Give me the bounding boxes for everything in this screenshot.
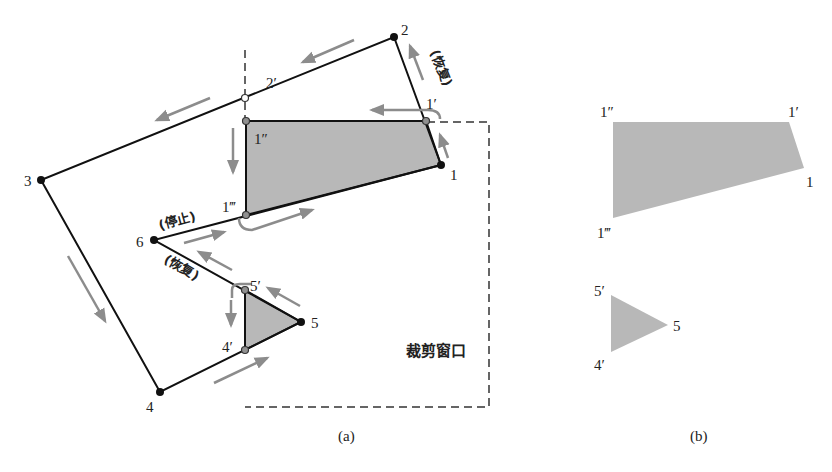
label-5-prime: 5′ [250, 278, 261, 294]
label-vertex-3: 3 [24, 173, 32, 189]
clipped-region-2 [245, 290, 301, 350]
label-vertex-4: 4 [146, 399, 154, 415]
vertices [37, 33, 445, 396]
label-1-triple-prime: 1‴ [222, 199, 237, 215]
caption-a: (a) [338, 428, 355, 445]
label-vertex-2: 2 [401, 22, 409, 38]
label-vertex-1: 1 [450, 167, 458, 183]
vertex-1 [437, 161, 445, 169]
arrow-1p-to-2 [410, 46, 423, 80]
arrow-6-to-1ppp [184, 232, 224, 243]
result-polygon-2 [611, 295, 668, 352]
point-2-prime [242, 95, 249, 102]
label-1-prime: 1′ [426, 96, 437, 112]
subject-polygon [41, 37, 441, 392]
caption-b: (b) [690, 428, 708, 445]
panel-a: 1 2 3 4 5 6 1′ 2′ 1″ 1‴ 5′ 4′ (恢复) (停止) … [24, 22, 489, 445]
label-b-5-prime: 5′ [594, 283, 605, 299]
point-1-triple-prime [243, 212, 250, 219]
label-b-1: 1 [806, 174, 814, 190]
arrow-1-to-1p [440, 135, 448, 158]
arrow-2p-to-3 [157, 98, 210, 120]
label-b-1-triple-prime: 1‴ [597, 225, 612, 241]
label-vertex-6: 6 [136, 234, 144, 250]
clipped-region-1 [246, 121, 441, 215]
vertex-3 [37, 176, 45, 184]
arrow-5-to-5p [268, 288, 300, 306]
vertex-4 [156, 388, 164, 396]
result-polygon-1 [613, 122, 804, 218]
clip-window-label: 裁剪窗口 [406, 342, 466, 360]
label-b-5: 5 [673, 318, 681, 334]
vertex-2 [390, 33, 398, 41]
label-b-1-double-prime: 1″ [600, 104, 614, 120]
label-1-double-prime: 1″ [254, 131, 268, 147]
point-1-double-prime [243, 118, 250, 125]
label-4-prime: 4′ [222, 339, 233, 355]
label-vertex-5: 5 [311, 315, 319, 331]
point-5-prime [242, 287, 249, 294]
clipping-diagram: 1 2 3 4 5 6 1′ 2′ 1″ 1‴ 5′ 4′ (恢复) (停止) … [0, 0, 832, 472]
point-4-prime [242, 347, 249, 354]
label-2-prime: 2′ [266, 75, 277, 91]
vertex-6 [150, 236, 158, 244]
arrow-3-to-4 [68, 256, 105, 321]
point-1-prime [423, 118, 430, 125]
vertex-5 [297, 318, 305, 326]
arrow-2-to-2p-a [303, 40, 354, 62]
label-b-1-prime: 1′ [788, 104, 799, 120]
label-b-4-prime: 4′ [594, 357, 605, 373]
annotation-resume-top: (恢复) [427, 48, 455, 89]
panel-b: 1″ 1′ 1 1‴ 5′ 5 4′ (b) [594, 104, 814, 445]
